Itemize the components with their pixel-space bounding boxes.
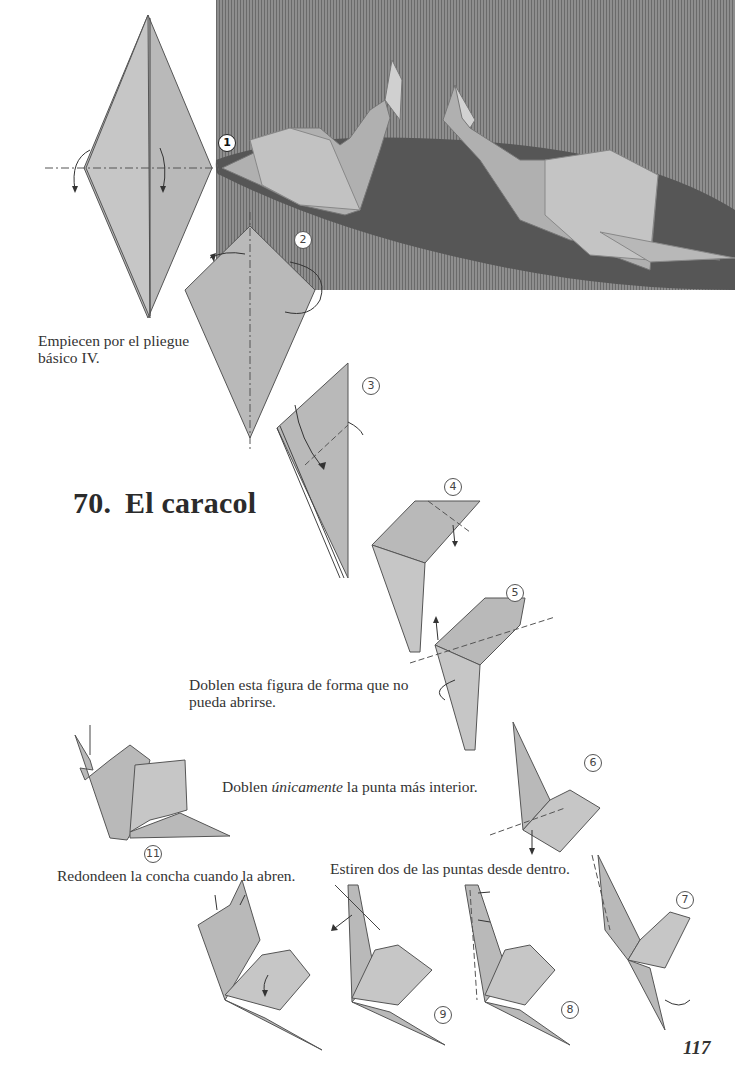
page-number-text: 117: [683, 1037, 710, 1058]
diagram-step-11: [0, 0, 735, 1080]
page-title: 70.El caracol: [73, 486, 256, 520]
caption-start-text: Empiecen por el pliegue básico IV.: [38, 332, 189, 366]
caption-start: Empiecen por el pliegue básico IV.: [38, 332, 208, 366]
caption-fold-inner-prefix: Doblen: [222, 778, 272, 795]
caption-fold-inner: Doblen únicamente la punta más interior.: [222, 778, 478, 795]
caption-stretch-points-text: Estiren dos de las puntas desde dentro.: [330, 860, 570, 877]
caption-stretch-points: Estiren dos de las puntas desde dentro.: [330, 860, 570, 877]
title-number: 70.: [73, 486, 111, 519]
page-number: 117: [683, 1037, 710, 1059]
step-11-label: 11: [146, 847, 160, 860]
caption-fold-closed: Doblen esta figura de forma que no pueda…: [189, 676, 459, 710]
caption-fold-inner-emphasis: únicamente: [272, 778, 343, 795]
caption-round-shell: Redondeen la concha cuando la abren.: [57, 867, 295, 884]
caption-round-shell-text: Redondeen la concha cuando la abren.: [57, 867, 295, 884]
caption-fold-closed-line1: Doblen esta figura de forma que no: [189, 676, 459, 693]
caption-fold-inner-suffix: la punta más interior.: [343, 778, 478, 795]
title-text: El caracol: [125, 486, 256, 519]
step-11-marker: 11: [144, 845, 162, 863]
caption-fold-closed-line2: pueda abrirse.: [189, 693, 459, 710]
